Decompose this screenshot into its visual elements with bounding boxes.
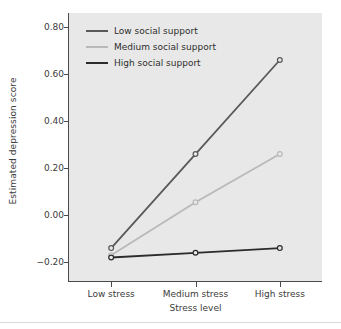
legend-line-swatch bbox=[86, 46, 108, 48]
x-axis-tick-mark bbox=[111, 282, 112, 287]
footer-divider bbox=[0, 322, 341, 323]
legend-item: Medium social support bbox=[86, 40, 216, 53]
y-axis-title-text: Estimated depression score bbox=[8, 77, 18, 204]
series-marker bbox=[109, 246, 114, 251]
y-axis-tick-label: −0.20 bbox=[30, 257, 64, 267]
x-axis-tick-label: Medium stress bbox=[163, 289, 228, 299]
series-marker bbox=[193, 200, 198, 205]
series-marker bbox=[277, 58, 282, 63]
x-axis-title: Stress level bbox=[69, 303, 322, 313]
y-axis-tick-mark bbox=[64, 27, 69, 28]
y-axis-tick-mark bbox=[64, 262, 69, 263]
series-marker bbox=[277, 246, 282, 251]
y-axis-tick-mark bbox=[64, 74, 69, 75]
series-marker bbox=[193, 152, 198, 157]
x-axis-tick-label: High stress bbox=[255, 289, 305, 299]
y-axis-tick-label: 0.80 bbox=[30, 22, 64, 32]
series-marker bbox=[277, 152, 282, 157]
y-axis-tick-label: 0.40 bbox=[30, 116, 64, 126]
legend-item-label: High social support bbox=[114, 58, 201, 68]
y-axis-tick-label: 0.60 bbox=[30, 69, 64, 79]
legend-item: High social support bbox=[86, 56, 216, 69]
series-marker bbox=[193, 250, 198, 255]
x-axis-line bbox=[68, 281, 322, 282]
legend-item: Low social support bbox=[86, 24, 216, 37]
y-axis-tick-mark bbox=[64, 215, 69, 216]
x-axis-tick-mark bbox=[280, 282, 281, 287]
chart-legend: Low social supportMedium social supportH… bbox=[86, 24, 216, 69]
series-marker bbox=[109, 255, 114, 260]
legend-line-swatch bbox=[86, 30, 108, 32]
x-axis-tick-label: Low stress bbox=[88, 289, 135, 299]
x-axis-tick-mark bbox=[196, 282, 197, 287]
y-axis-tick-label: 0.20 bbox=[30, 163, 64, 173]
legend-item-label: Low social support bbox=[114, 26, 198, 36]
y-axis-tick-label: 0.00 bbox=[30, 210, 64, 220]
y-axis-tick-mark bbox=[64, 168, 69, 169]
chart-figure: Estimated depression score 0.800.600.400… bbox=[0, 0, 341, 329]
legend-line-swatch bbox=[86, 62, 108, 64]
legend-item-label: Medium social support bbox=[114, 42, 216, 52]
y-axis-tick-labels: 0.800.600.400.200.00−0.20 bbox=[26, 0, 64, 329]
y-axis-title: Estimated depression score bbox=[0, 0, 26, 281]
y-axis-tick-mark bbox=[64, 121, 69, 122]
